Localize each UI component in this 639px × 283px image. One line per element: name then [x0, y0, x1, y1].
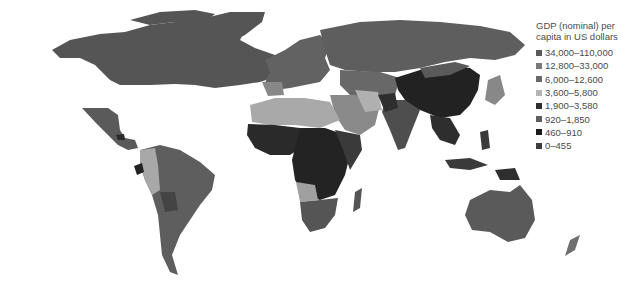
legend-item: 920–1,850 [536, 112, 636, 125]
region-philippines [480, 130, 490, 150]
legend-item: 34,000–110,000 [536, 46, 636, 59]
region-iberia [262, 82, 284, 96]
legend-item: 0–455 [536, 139, 636, 152]
region-korea-japan [485, 75, 505, 105]
legend-swatch [536, 50, 542, 56]
legend-swatch [536, 76, 542, 82]
region-australia [465, 185, 535, 242]
region-europe [264, 35, 330, 90]
legend-swatch [536, 90, 542, 96]
legend-title-line-1: GDP (nominal) per [536, 20, 636, 31]
legend-label: 460–910 [545, 127, 582, 138]
legend-item: 460–910 [536, 126, 636, 139]
region-southeast-asia [430, 115, 460, 145]
region-madagascar [353, 188, 362, 212]
legend-swatch [536, 129, 542, 135]
legend-swatch [536, 63, 542, 69]
legend-label: 34,000–110,000 [545, 47, 613, 58]
region-new-zealand [565, 235, 580, 256]
region-north-africa [250, 98, 340, 128]
legend-swatch [536, 143, 542, 149]
region-southern-africa [300, 198, 338, 232]
region-russia [320, 20, 525, 72]
region-mexico-central-america [82, 108, 138, 150]
legend-swatch [536, 103, 542, 109]
legend-label: 12,800–33,000 [545, 60, 608, 71]
legend-label: 1,900–3,580 [545, 100, 598, 111]
legend-item: 3,600–5,800 [536, 86, 636, 99]
region-indonesia [445, 158, 488, 170]
legend-item: 6,000–12,600 [536, 73, 636, 86]
legend-label: 6,000–12,600 [545, 74, 603, 85]
legend-title: GDP (nominal) per capita in US dollars [536, 20, 636, 42]
legend-label: 0–455 [545, 140, 571, 151]
region-angola [296, 182, 318, 202]
region-papua [495, 168, 520, 180]
legend-title-line-2: capita in US dollars [536, 31, 636, 42]
legend-item: 12,800–33,000 [536, 59, 636, 72]
legend-item: 1,900–3,580 [536, 99, 636, 112]
legend-label: 920–1,850 [545, 114, 590, 125]
legend-label: 3,600–5,800 [545, 87, 598, 98]
legend-swatch [536, 116, 542, 122]
map-legend: GDP (nominal) per capita in US dollars 3… [536, 20, 636, 152]
